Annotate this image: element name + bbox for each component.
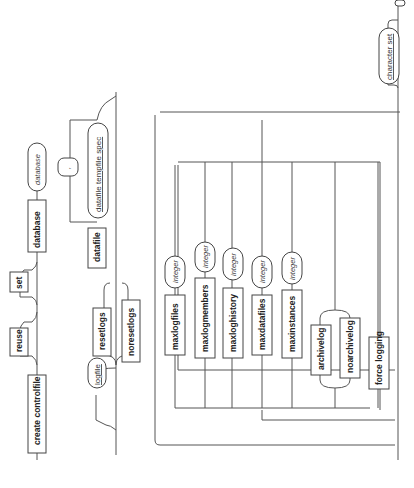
- maxlogfiles-integer-label: integer: [171, 260, 180, 283]
- maxdatafiles-label: maxdatafiles: [257, 298, 267, 350]
- maxinstances-integer-label: integer: [288, 257, 297, 280]
- maxloghistory-label: maxloghistory: [228, 294, 238, 352]
- maxdatafiles-integer-label: integer: [258, 260, 267, 283]
- reuse-label: reuse: [14, 329, 24, 352]
- resetlogs-label: resetlogs: [97, 312, 107, 350]
- maxloghistory-integer-label: integer: [229, 253, 238, 276]
- row-options: maxlogfiles integer maxlogmembers intege…: [155, 112, 400, 445]
- comma-separator-label: ,: [63, 167, 72, 169]
- row-character-set: character set: [379, 0, 405, 460]
- row-create-controlfile: create controlfile reuse set database da…: [10, 143, 46, 460]
- maxlogfiles-label: maxlogfiles: [170, 303, 180, 350]
- end-node: [395, 0, 405, 6]
- row-logfile-datafile: logfile resetlogs noresetlogs datafile d…: [58, 92, 140, 455]
- noarchivelog-label: noarchivelog: [345, 320, 355, 373]
- set-label: set: [14, 277, 24, 289]
- maxlogmembers-integer-label: integer: [201, 245, 210, 268]
- archivelog-label: archivelog: [316, 327, 326, 370]
- create-controlfile-label: create controlfile: [32, 376, 42, 445]
- datafile-spec-label: datafile tempfile spec: [94, 137, 103, 212]
- noresetlogs-label: noresetlogs: [126, 308, 136, 356]
- maxlogmembers-label: maxlogmembers: [200, 284, 210, 352]
- force-logging-label: force logging: [374, 331, 384, 385]
- maxinstances-label: maxinstances: [287, 296, 297, 352]
- datafile-label: datafile: [92, 232, 102, 262]
- database-name-label: database: [33, 154, 42, 185]
- logfile-label: logfile: [93, 364, 102, 385]
- character-set-label: character set: [385, 33, 394, 80]
- database-label: database: [32, 211, 42, 248]
- syntax-diagram: create controlfile reuse set database da…: [0, 0, 414, 488]
